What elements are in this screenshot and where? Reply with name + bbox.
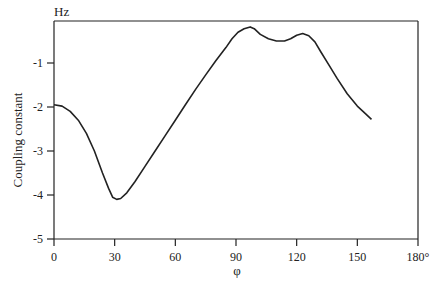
y-tick-label: -2	[33, 100, 43, 114]
x-tick-label: 180°	[407, 250, 430, 264]
y-axis-title: Coupling constant	[10, 92, 25, 187]
x-tick-label: 60	[169, 250, 181, 264]
x-axis-ticks: 0306090120150180°	[51, 239, 430, 264]
x-axis-title: φ	[233, 263, 241, 278]
x-tick-label: 150	[348, 250, 366, 264]
y-tick-label: -5	[33, 232, 43, 246]
y-tick-label: -3	[33, 144, 43, 158]
y-unit-label: Hz	[54, 4, 69, 19]
plot-frame	[54, 21, 418, 239]
y-axis-ticks: -1-2-3-4-5	[33, 56, 54, 246]
x-tick-label: 90	[230, 250, 242, 264]
y-tick-label: -1	[33, 56, 43, 70]
y-tick-label: -4	[33, 188, 43, 202]
data-line	[54, 27, 372, 200]
x-tick-label: 120	[288, 250, 306, 264]
x-tick-label: 30	[109, 250, 121, 264]
coupling-constant-chart: -1-2-3-4-5 0306090120150180° Hz Coupling…	[0, 0, 446, 292]
x-tick-label: 0	[51, 250, 57, 264]
